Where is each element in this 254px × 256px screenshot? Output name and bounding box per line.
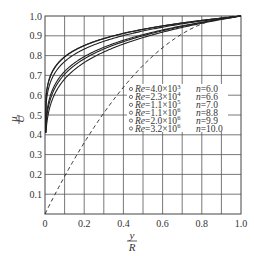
legend-entry-re: Re=3.2×106 bbox=[134, 122, 181, 134]
y-tick-labels: 0.10.20.30.40.50.60.70.80.91.0 bbox=[30, 11, 43, 200]
y-tick-label: 0.1 bbox=[30, 189, 43, 200]
y-tick-label: 0.8 bbox=[30, 50, 43, 61]
x-tick-label: 0.6 bbox=[156, 218, 169, 229]
y-tick-label: 0.7 bbox=[30, 70, 43, 81]
legend: Re=4.0×103n=6.0Re=2.3×104n=6.6Re=1.1×105… bbox=[127, 83, 228, 134]
x-tick-labels: 00.20.40.60.81.0 bbox=[43, 218, 248, 229]
legend-entry-n: n=10.0 bbox=[196, 124, 223, 134]
y-tick-label: 0.9 bbox=[30, 30, 43, 41]
velocity-profile-chart: 0.10.20.30.40.50.60.70.80.91.0 00.20.40.… bbox=[0, 0, 254, 256]
x-axis-label: y R bbox=[127, 229, 137, 253]
y-axis-label: u U bbox=[7, 114, 26, 124]
y-tick-label: 0.5 bbox=[30, 110, 43, 121]
y-tick-label: 0.4 bbox=[30, 129, 43, 140]
x-tick-label: 0.8 bbox=[196, 218, 209, 229]
y-tick-label: 1.0 bbox=[30, 11, 43, 22]
y-tick-label: 0.6 bbox=[30, 90, 43, 101]
y-axis-label-denominator: U bbox=[14, 114, 26, 123]
y-tick-label: 0.3 bbox=[30, 149, 43, 160]
y-tick-label: 0.2 bbox=[30, 169, 43, 180]
x-tick-label: 0.2 bbox=[78, 218, 91, 229]
x-tick-label: 0 bbox=[43, 218, 48, 229]
x-axis-label-denominator: R bbox=[128, 241, 136, 253]
x-tick-label: 0.4 bbox=[117, 218, 130, 229]
x-tick-label: 1.0 bbox=[235, 218, 248, 229]
x-axis-label-numerator: y bbox=[129, 229, 135, 241]
